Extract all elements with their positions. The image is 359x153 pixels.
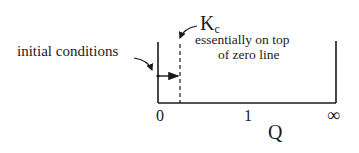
kc-main: K <box>200 12 214 34</box>
tick-label-0: 0 <box>156 108 164 124</box>
tick-label-1: 1 <box>244 108 252 124</box>
note-line-2: of zero line <box>218 48 279 62</box>
tick-label-infinity: ∞ <box>327 106 340 124</box>
initial-conditions-label: initial conditions <box>17 44 118 59</box>
q-vs-kc-diagram: initial conditions Kc essentially on top… <box>0 0 359 153</box>
initial-conditions-pointer <box>134 58 152 70</box>
diagram-graphics <box>0 0 359 153</box>
axis-title-q: Q <box>268 122 282 142</box>
note-line-1: essentially on top <box>195 33 290 47</box>
